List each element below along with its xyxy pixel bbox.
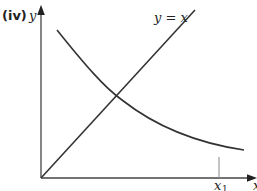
panel-label: (iv) bbox=[2, 8, 27, 23]
x1-subscript: 1 bbox=[222, 184, 228, 191]
graph: (iv) y y = x x 1 x bbox=[0, 0, 257, 191]
y-axis-label: y bbox=[28, 8, 37, 23]
line-y-equals-x bbox=[41, 10, 195, 178]
line-label: y = x bbox=[153, 10, 189, 25]
x1-label: x bbox=[214, 178, 222, 191]
decreasing-curve bbox=[57, 30, 244, 150]
x-axis-label: x bbox=[253, 178, 257, 191]
